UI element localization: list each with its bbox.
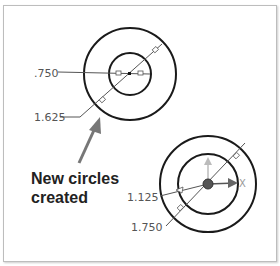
x-axis-label: X [239, 178, 246, 189]
dimension-1625[interactable]: 1.625 [34, 111, 66, 124]
annotation-arrow-icon [79, 117, 101, 163]
y-axis-arrow-icon [204, 157, 212, 165]
annotation-line1: New circles [31, 170, 119, 187]
x-axis-arrow-icon [228, 178, 238, 188]
sketch-canvas: .750 1.625 New circles created X 1.125 1… [0, 0, 280, 266]
annotation-line2: created [31, 189, 88, 206]
bottom-circle-assembly: X 1.125 1.750 [127, 136, 256, 234]
center-point[interactable] [203, 179, 213, 189]
dimension-750[interactable]: .750 [34, 67, 59, 80]
top-circle-assembly: .750 1.625 [34, 28, 176, 124]
dimension-1750[interactable]: 1.750 [131, 221, 163, 234]
dimension-1125[interactable]: 1.125 [127, 191, 159, 204]
